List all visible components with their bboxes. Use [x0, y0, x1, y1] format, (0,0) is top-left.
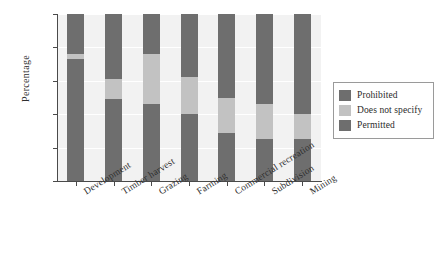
- x-tick-label: Development: [82, 188, 87, 196]
- x-tick-mark: [189, 182, 190, 186]
- x-tick-label: Subdivision: [270, 188, 275, 196]
- bar-segment: [294, 14, 311, 114]
- bar-segment: [105, 79, 122, 99]
- legend-swatch: [339, 120, 351, 131]
- bar: [105, 14, 122, 181]
- bar-segment: [67, 54, 84, 59]
- x-tick-mark: [151, 182, 152, 186]
- bar-segment: [218, 14, 235, 98]
- bar-segment: [105, 14, 122, 79]
- y-tick-mark: [53, 148, 57, 149]
- legend-item: Prohibited: [339, 88, 427, 103]
- x-tick-label: Timber harvest: [120, 188, 125, 196]
- bar-segment: [256, 104, 273, 139]
- bar-segment: [143, 54, 160, 104]
- bar-segment: [294, 114, 311, 139]
- x-tick-mark: [114, 182, 115, 186]
- legend-swatch: [339, 105, 351, 116]
- bar-segment: [256, 14, 273, 104]
- y-tick-mark: [53, 14, 57, 15]
- bar-segment: [181, 77, 198, 114]
- bar-segment: [218, 98, 235, 133]
- x-tick-label: Commercial recreation: [233, 188, 238, 196]
- x-tick-mark: [76, 182, 77, 186]
- x-tick-label: Grazing: [157, 188, 162, 196]
- legend: ProhibitedDoes not specifyPermitted: [333, 82, 434, 139]
- x-tick-label: Farming: [195, 188, 200, 196]
- legend-swatch: [339, 90, 351, 101]
- legend-label: Does not specify: [357, 105, 422, 116]
- bar: [181, 14, 198, 181]
- x-tick-mark: [264, 182, 265, 186]
- y-axis-title: Percentage: [20, 19, 31, 139]
- bar: [143, 14, 160, 181]
- y-tick-mark: [53, 81, 57, 82]
- legend-label: Permitted: [357, 120, 395, 131]
- legend-item: Permitted: [339, 118, 427, 133]
- legend-label: Prohibited: [357, 90, 398, 101]
- legend-item: Does not specify: [339, 103, 427, 118]
- bar: [218, 14, 235, 181]
- chart-figure: Percentage 020406080100 DevelopmentTimbe…: [0, 0, 442, 278]
- bar-segment: [181, 14, 198, 77]
- x-tick-mark: [302, 182, 303, 186]
- x-tick-mark: [227, 182, 228, 186]
- x-tick-label: Mining: [308, 188, 313, 196]
- y-tick-mark: [53, 181, 57, 182]
- bar-segment: [67, 59, 84, 181]
- y-axis-line: [57, 14, 58, 182]
- y-tick-mark: [53, 47, 57, 48]
- y-tick-mark: [53, 114, 57, 115]
- bar-segment: [143, 14, 160, 54]
- bar: [67, 14, 84, 181]
- bar-segment: [67, 14, 84, 54]
- bar: [256, 14, 273, 181]
